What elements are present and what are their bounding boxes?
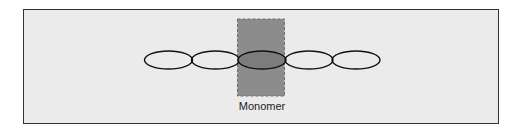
monomer-label: Monomer — [236, 100, 288, 112]
polymer-chain-diagram — [0, 0, 527, 134]
chain-unit-1 — [145, 51, 193, 69]
chain-unit-4 — [285, 51, 333, 69]
chain-unit-2 — [192, 51, 240, 69]
chain-unit-5 — [332, 51, 380, 69]
chain-unit-3-monomer — [238, 51, 286, 69]
